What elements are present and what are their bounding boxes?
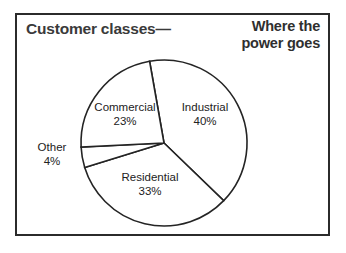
- pie-slice-label-commercial: Commercial 23%: [88, 100, 162, 128]
- pie-slice-label-industrial: Industrial 40%: [172, 100, 238, 128]
- slice-percent-industrial: 40%: [172, 114, 238, 128]
- slice-percent-commercial: 23%: [88, 114, 162, 128]
- slice-name-other: Other: [26, 140, 78, 154]
- pie-slice-label-residential: Residential 33%: [112, 170, 188, 198]
- slice-percent-residential: 33%: [112, 184, 188, 198]
- pie-chart-figure: Customer classes— Where the power goes C…: [0, 0, 346, 253]
- slice-name-commercial: Commercial: [88, 100, 162, 114]
- slice-percent-other: 4%: [26, 154, 78, 168]
- slice-name-residential: Residential: [112, 170, 188, 184]
- pie-slice-label-other: Other 4%: [26, 140, 78, 168]
- slice-name-industrial: Industrial: [172, 100, 238, 114]
